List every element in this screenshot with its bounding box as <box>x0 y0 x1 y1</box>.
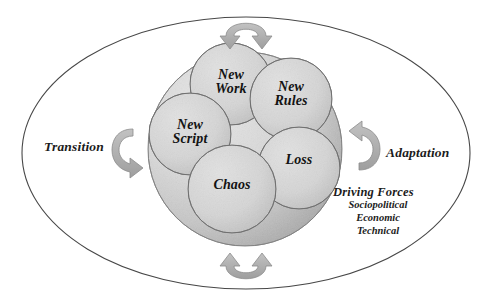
node-label-new-rules-line2: Rules <box>256 94 326 108</box>
diagram-canvas: New Work New Rules New Script Chaos Loss… <box>0 0 492 304</box>
driving-force-item-sociopolitical: Sociopolitical <box>326 199 430 212</box>
node-label-new-script-line2: Script <box>153 132 227 146</box>
label-transition: Transition <box>44 139 104 155</box>
driving-force-item-economic: Economic <box>326 212 430 225</box>
node-label-loss: Loss <box>269 153 329 167</box>
node-label-new-rules-line1: New <box>256 80 326 94</box>
node-label-chaos: Chaos <box>197 178 267 192</box>
driving-force-item-technical: Technical <box>326 225 430 238</box>
label-adaptation: Adaptation <box>386 145 450 161</box>
label-driving-forces: Driving Forces <box>333 185 414 200</box>
node-label-new-script: New Script <box>153 118 227 147</box>
node-label-chaos-line1: Chaos <box>197 178 267 192</box>
driving-forces-list: Sociopolitical Economic Technical <box>326 199 430 237</box>
node-label-new-script-line1: New <box>153 118 227 132</box>
node-label-loss-line1: Loss <box>269 153 329 167</box>
node-label-new-rules: New Rules <box>256 80 326 109</box>
